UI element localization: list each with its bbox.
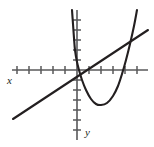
straight-line-curve <box>13 30 148 119</box>
x-axis-label: x <box>7 75 12 86</box>
plot-canvas <box>0 0 154 147</box>
graph-figure: x y <box>0 0 154 147</box>
y-axis-label: y <box>85 127 90 138</box>
